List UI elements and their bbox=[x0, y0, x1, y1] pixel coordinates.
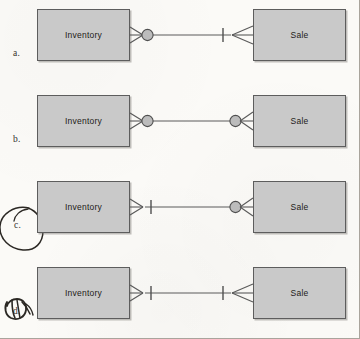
entity-label-inventory-a: Inventory bbox=[65, 30, 102, 40]
entity-label-sale-d: Sale bbox=[290, 288, 308, 298]
entity-box-inventory-d[interactable]: Inventory bbox=[37, 267, 130, 319]
entity-box-sale-a[interactable]: Sale bbox=[253, 9, 346, 61]
crowsfoot-right-a bbox=[232, 26, 253, 44]
entity-label-sale-b: Sale bbox=[290, 116, 308, 126]
diagram-row-b: b. Inventory Sale bbox=[0, 86, 360, 166]
entity-label-sale-a: Sale bbox=[290, 30, 308, 40]
entity-label-sale-c: Sale bbox=[290, 202, 308, 212]
diagram-row-c: c. Inventory Sale bbox=[0, 172, 360, 252]
crowsfoot-right-d bbox=[232, 284, 253, 302]
row-label-d: d. bbox=[13, 306, 21, 316]
entity-box-inventory-b[interactable]: Inventory bbox=[37, 95, 130, 147]
optional-circle-right-b bbox=[230, 115, 241, 126]
optional-circle-right-c bbox=[230, 201, 241, 212]
relationship-connector-b[interactable] bbox=[129, 105, 255, 137]
entity-label-inventory-d: Inventory bbox=[65, 288, 102, 298]
entity-label-inventory-c: Inventory bbox=[65, 202, 102, 212]
crowsfoot-right-b bbox=[240, 112, 253, 130]
entity-box-sale-c[interactable]: Sale bbox=[253, 181, 346, 233]
crowsfoot-left-a bbox=[130, 27, 143, 43]
entity-box-inventory-c[interactable]: Inventory bbox=[37, 181, 130, 233]
crowsfoot-left-c bbox=[130, 199, 143, 215]
diagram-row-d: d. Inventory Sale bbox=[0, 258, 360, 338]
crowsfoot-right-c bbox=[240, 198, 253, 216]
entity-box-sale-d[interactable]: Sale bbox=[253, 267, 346, 319]
relationship-connector-c[interactable] bbox=[129, 191, 255, 223]
diagram-row-a: a. Inventory Sale bbox=[0, 0, 360, 80]
row-label-c: c. bbox=[14, 220, 21, 230]
relationship-connector-a[interactable] bbox=[129, 19, 255, 51]
row-label-a: a. bbox=[13, 48, 20, 58]
entity-label-inventory-b: Inventory bbox=[65, 116, 102, 126]
relationship-connector-d[interactable] bbox=[129, 277, 255, 309]
crowsfoot-left-d bbox=[130, 285, 143, 301]
optional-circle-left-b bbox=[142, 115, 153, 126]
optional-circle-left-a bbox=[142, 29, 153, 40]
entity-box-inventory-a[interactable]: Inventory bbox=[37, 9, 130, 61]
row-label-b: b. bbox=[13, 134, 21, 144]
entity-box-sale-b[interactable]: Sale bbox=[253, 95, 346, 147]
crowsfoot-left-b bbox=[130, 113, 143, 129]
